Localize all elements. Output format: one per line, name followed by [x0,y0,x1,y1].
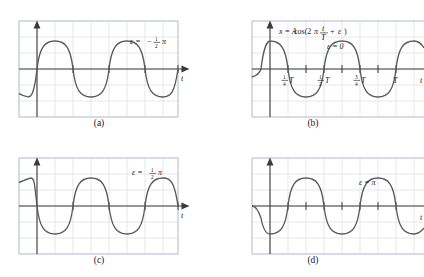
panel-a: ε = − 1 2 π t (a) [0,0,210,140]
formula-den-b: T [321,33,326,42]
tick-label-half-den: 2 [319,81,322,87]
tick-label-quarter-sym: T [289,76,294,85]
x-axis-label-a: t [181,74,184,83]
panel-caption-b: (b) [209,118,417,128]
tick-label-half-num: 1 [319,74,322,80]
panel-b-plot: x = A cos(2 π t T + ε ) ε = 0 1 4 T 1 2 [209,0,424,122]
tick-label-full-T-b: T [393,76,398,85]
panel-caption-c: (c) [0,255,198,265]
tick-label-half-sym: T [325,76,330,85]
panel-b: x = A cos(2 π t T + ε ) ε = 0 1 4 T 1 2 [209,0,419,140]
epsilon-symbol-c: ε = [132,168,143,177]
epsilon-denominator-a: 2 [155,43,158,49]
panel-a-plot: ε = − 1 2 π t [0,0,210,122]
epsilon-label-b: ε = 0 [327,42,344,51]
panel-caption-d: (d) [209,255,417,265]
panel-c: ε = 1 2 π t (c) [0,140,210,277]
epsilon-label-d: ε = π [359,178,377,187]
epsilon-numerator-a: 1 [155,36,158,42]
panel-caption-a: (a) [0,118,198,128]
tick-label-threequarter-den: 4 [355,81,358,87]
panel-d: ε = π t (d) [209,140,419,277]
panel-d-plot: ε = π t [209,140,424,260]
formula-cos-b: cos(2 [294,27,311,36]
tick-label-quarter-num: 1 [283,74,286,80]
epsilon-numerator-c: 1 [151,167,154,173]
epsilon-sign-a: − [147,37,152,46]
tick-label-quarter-den: 4 [283,81,286,87]
formula-close-b: ) [344,27,347,36]
epsilon-symbol-a: ε = [130,37,141,46]
x-axis-label-c: t [181,211,184,220]
tick-label-threequarter-sym: T [361,76,366,85]
epsilon-denominator-c: 2 [151,174,154,180]
panel-c-plot: ε = 1 2 π t [0,140,210,260]
tick-label-threequarter-num: 3 [355,74,358,80]
formula-plus-b: + [330,27,335,36]
